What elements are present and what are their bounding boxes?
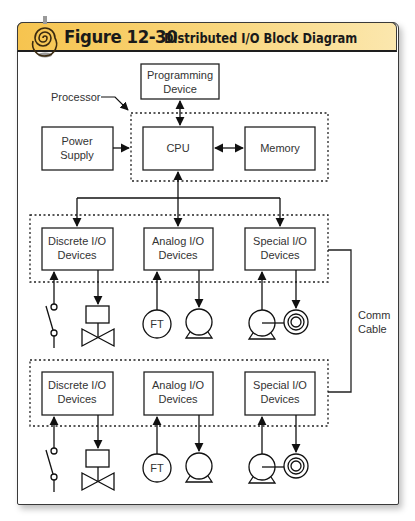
svg-text:Devices: Devices: [57, 393, 97, 405]
encoder-icon: [284, 270, 308, 334]
svg-text:Comm: Comm: [358, 309, 390, 321]
svg-text:Memory: Memory: [260, 142, 300, 154]
figure-number: Figure 12-30: [64, 26, 177, 47]
figure-title: Distributed I/O Block Diagram: [164, 30, 357, 46]
comm-cable: Comm Cable: [328, 250, 390, 392]
svg-text:Cable: Cable: [358, 323, 387, 335]
switch-icon: [46, 417, 57, 492]
motor-icon: [249, 417, 284, 483]
power-supply-block: Power Supply: [42, 127, 113, 170]
svg-text:Special I/O: Special I/O: [253, 235, 307, 247]
memory-block: Memory: [245, 127, 315, 170]
solenoid-valve-icon: [82, 415, 114, 490]
svg-text:CPU: CPU: [166, 142, 189, 154]
io-rack-2: Discrete I/O Devices Analog I/O Devices …: [30, 360, 328, 492]
svg-text:Discrete I/O: Discrete I/O: [48, 379, 107, 391]
pump-icon: [186, 270, 212, 338]
encoder-icon: [284, 415, 308, 478]
processor-label: Processor: [51, 91, 101, 103]
programming-device-block: Programming Device: [141, 64, 219, 99]
svg-text:Devices: Devices: [57, 249, 97, 261]
io-rack-1: Discrete I/O Devices Analog I/O Devices …: [30, 215, 328, 348]
svg-text:Special I/O: Special I/O: [253, 379, 307, 391]
svg-text:FT: FT: [150, 318, 164, 330]
spiral-icon: [33, 16, 57, 58]
svg-text:Discrete I/O: Discrete I/O: [48, 235, 107, 247]
processor-pointer-arrow: [101, 97, 128, 110]
switch-icon: [46, 272, 57, 348]
svg-text:Supply: Supply: [60, 149, 94, 161]
diagram-canvas: Programming Device Processor Power Suppl…: [0, 0, 415, 521]
cpu-block: CPU: [143, 127, 213, 170]
svg-text:Analog I/O: Analog I/O: [152, 235, 204, 247]
svg-text:Devices: Devices: [158, 249, 198, 261]
io-bus: [77, 172, 280, 226]
svg-text:Devices: Devices: [158, 393, 198, 405]
svg-text:Device: Device: [163, 83, 197, 95]
svg-text:FT: FT: [150, 462, 164, 474]
svg-text:Devices: Devices: [260, 249, 300, 261]
svg-text:Devices: Devices: [260, 393, 300, 405]
svg-text:Programming: Programming: [147, 69, 213, 81]
svg-text:Power: Power: [61, 135, 93, 147]
solenoid-valve-icon: [82, 270, 114, 346]
svg-text:Analog I/O: Analog I/O: [152, 379, 204, 391]
pump-icon: [186, 415, 212, 482]
